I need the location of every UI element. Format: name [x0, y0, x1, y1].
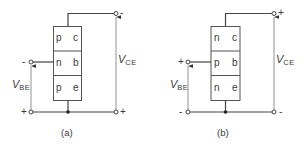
diagram-b-npn: n c p b n e + - + - VBE VCE (b): [170, 7, 295, 138]
region-doping-1-b: n: [214, 32, 220, 43]
vce-bottom-sign-b: -: [279, 106, 282, 117]
junction-dot-a: [66, 110, 70, 114]
vce-bottom-sign-a: +: [120, 106, 126, 117]
vbe-bottom-sign-b: -: [179, 106, 182, 117]
region-doping-2-b: p: [214, 57, 220, 68]
vbe-top-sign-a: -: [22, 56, 25, 67]
vbe-top-sign-b: +: [178, 56, 184, 67]
vbe-label-b: VBE: [170, 78, 188, 92]
collector-wire-b: [226, 14, 273, 27]
terminal-collector-a: [114, 12, 118, 16]
terminal-collector-b: [272, 12, 276, 16]
vbe-label-a: VBE: [12, 78, 30, 92]
transistor-bias-diagrams: p c n b p e - + - + VBE VCE (a) n c: [0, 0, 306, 146]
region-terminal-3-a: e: [73, 82, 79, 93]
junction-dot-b: [224, 110, 228, 114]
terminal-base-b: [186, 60, 190, 64]
terminal-emitter-right-a: [114, 110, 118, 114]
terminal-emitter-left-b: [186, 110, 190, 114]
region-doping-3-a: p: [56, 82, 62, 93]
region-terminal-2-b: b: [232, 57, 238, 68]
region-terminal-2-a: b: [73, 57, 79, 68]
region-terminal-1-b: c: [232, 32, 237, 43]
terminal-base-a: [29, 60, 33, 64]
vce-top-sign-a: -: [120, 7, 123, 18]
region-doping-3-b: n: [214, 82, 220, 93]
vce-label-a: VCE: [118, 53, 137, 67]
region-doping-2-a: n: [56, 57, 62, 68]
caption-a: (a): [61, 127, 73, 138]
vce-label-b: VCE: [276, 53, 295, 67]
vce-top-sign-b: +: [278, 7, 284, 18]
region-doping-1-a: p: [56, 32, 62, 43]
terminal-emitter-right-b: [272, 110, 276, 114]
terminal-emitter-left-a: [29, 110, 33, 114]
region-terminal-1-a: c: [73, 32, 78, 43]
diagram-a-pnp: p c n b p e - + - + VBE VCE (a): [12, 7, 137, 138]
collector-wire-a: [68, 14, 114, 27]
vbe-bottom-sign-a: +: [21, 106, 27, 117]
region-terminal-3-b: e: [232, 82, 238, 93]
caption-b: (b): [217, 127, 229, 138]
